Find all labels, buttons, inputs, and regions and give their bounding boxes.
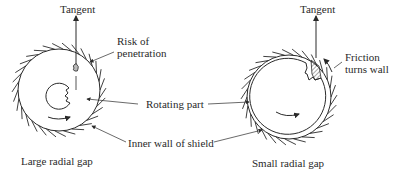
small-gap-diagram xyxy=(241,16,342,145)
large-gap-diagram xyxy=(12,16,114,137)
rotating-part-pointer-left xyxy=(87,99,138,104)
risk-pointer xyxy=(90,52,114,62)
right-shield-hatch-ticks xyxy=(241,49,337,145)
rotating-part-label: Rotating part xyxy=(146,98,204,110)
left-rotation-arrow xyxy=(48,117,70,119)
rotating-part-pointer-right xyxy=(208,102,249,104)
left-shield-hatch-ticks xyxy=(12,43,106,137)
inner-wall-label: Inner wall of shield xyxy=(128,137,214,149)
friction-turn-arrow xyxy=(324,59,332,72)
friction-label-line1: Friction xyxy=(345,51,380,63)
left-rotating-part xyxy=(46,83,70,109)
risk-label-line1: Risk of xyxy=(117,35,149,47)
particle-icon xyxy=(73,64,78,72)
right-rotation-arrow xyxy=(276,112,299,116)
right-caption: Small radial gap xyxy=(252,157,324,169)
friction-pointer xyxy=(334,62,342,68)
right-tangent-label: Tangent xyxy=(300,3,335,15)
friction-label-line2: turns wall xyxy=(345,63,389,75)
risk-label-line2: penetration xyxy=(117,47,166,59)
inner-wall-pointer-left xyxy=(92,126,126,142)
left-caption: Large radial gap xyxy=(21,155,93,167)
left-tangent-label: Tangent xyxy=(60,3,95,15)
inner-wall-pointer-right xyxy=(214,130,262,142)
